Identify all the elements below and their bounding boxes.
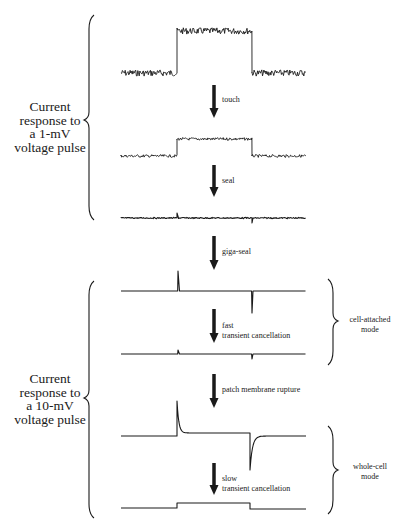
trace-3-seal — [121, 213, 306, 223]
trace-6-whole-cell — [121, 401, 306, 470]
label-line: fast — [222, 321, 290, 331]
label-line: mode — [340, 325, 400, 335]
label-line: voltage pulse — [0, 413, 100, 427]
right-brace-icon — [328, 279, 338, 365]
down-arrow-head-icon — [210, 333, 219, 343]
label-line: patch membrane rupture — [222, 385, 300, 395]
down-arrow-head-icon — [210, 108, 219, 118]
label-1mv-response: Current response to a 1-mV voltage pulse — [0, 100, 100, 154]
step-label-touch: touch — [222, 95, 240, 105]
trace-1-open-pipette — [121, 28, 306, 76]
label-line: whole-cell — [340, 462, 400, 472]
step-label-giga-seal: giga-seal — [222, 247, 251, 257]
step-label-fast-transient-cancellation: fast transient cancellation — [222, 321, 290, 341]
mode-label-cell-attached: cell-attached mode — [340, 315, 400, 335]
label-line: cell-attached — [340, 315, 400, 325]
right-brace-icon — [328, 426, 338, 514]
label-line: slow — [222, 474, 290, 484]
label-line: Current — [0, 100, 100, 114]
label-line: transient cancellation — [222, 331, 290, 341]
step-label-slow-transient-cancellation: slow transient cancellation — [222, 474, 290, 494]
step-label-patch-membrane-rupture: patch membrane rupture — [222, 385, 300, 395]
label-line: voltage pulse — [0, 141, 100, 155]
down-arrow-head-icon — [210, 485, 219, 495]
mode-label-whole-cell: whole-cell mode — [340, 462, 400, 482]
diagram-canvas — [0, 0, 406, 532]
label-line: transient cancellation — [222, 484, 290, 494]
label-line: Current — [0, 372, 100, 386]
patch-clamp-diagram: Current response to a 1-mV voltage pulse… — [0, 0, 406, 532]
label-line: response to — [0, 386, 100, 400]
label-line: seal — [222, 176, 234, 186]
trace-5-fast-cancel — [121, 350, 306, 359]
down-arrow-head-icon — [210, 187, 219, 197]
down-arrow-head-icon — [210, 260, 219, 270]
trace-4-giga-seal — [121, 271, 306, 313]
label-10mv-response: Current response to a 10-mV voltage puls… — [0, 372, 100, 426]
label-line: touch — [222, 95, 240, 105]
down-arrow-head-icon — [210, 398, 219, 408]
label-line: giga-seal — [222, 247, 251, 257]
trace-7-slow-cancel — [121, 503, 306, 509]
trace-2-touch — [121, 138, 306, 158]
label-line: a 10-mV — [0, 399, 100, 413]
label-line: a 1-mV — [0, 127, 100, 141]
label-line: response to — [0, 114, 100, 128]
step-label-seal: seal — [222, 176, 234, 186]
label-line: mode — [340, 472, 400, 482]
